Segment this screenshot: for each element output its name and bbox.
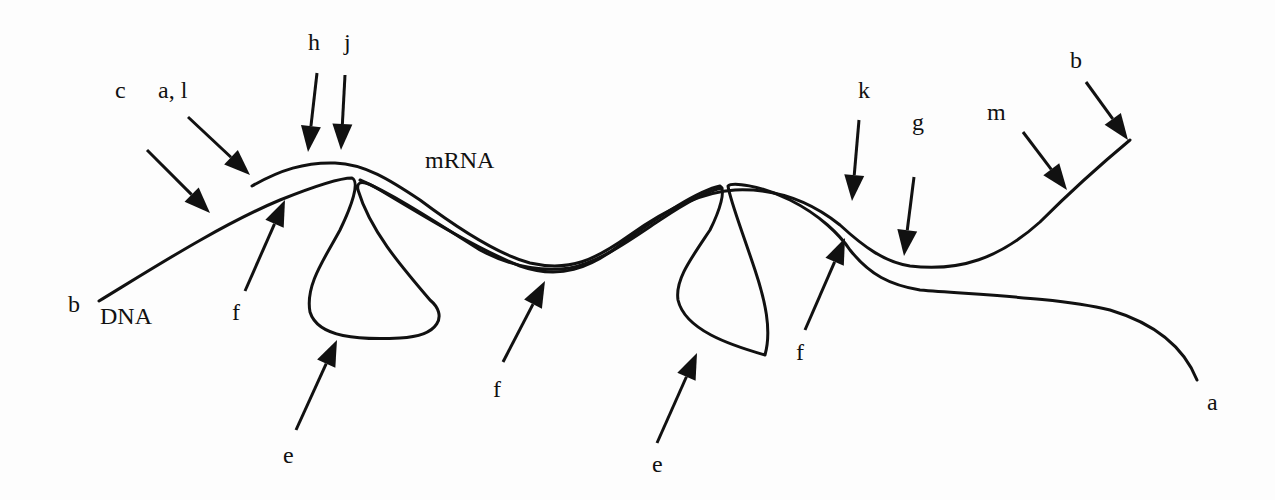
arrow-h-shaft: [311, 73, 317, 126]
arrow-e-2-shaft: [657, 377, 686, 443]
mrna-strand: [360, 180, 722, 269]
label-m: m: [987, 100, 1006, 124]
arrow-f-3-head-icon: [825, 238, 845, 266]
arrow-m-head-icon: [1043, 163, 1067, 190]
arrow-j-head-icon: [332, 124, 352, 150]
label-b-top: b: [1070, 48, 1082, 72]
label-g: g: [912, 110, 924, 134]
arrow-e-1-shaft: [296, 364, 326, 430]
label-e-2: e: [652, 452, 663, 476]
arrow-g-head-icon: [897, 229, 917, 256]
transcription-diagram: DNA mRNA c a, l h j k g m b b f f f e e …: [0, 0, 1275, 500]
arrow-j-shaft: [342, 75, 345, 124]
label-f-3: f: [796, 340, 804, 364]
label-b-left: b: [68, 292, 80, 316]
label-dna: DNA: [100, 304, 152, 328]
arrow-f-2-shaft: [503, 304, 533, 362]
label-f-1: f: [232, 300, 240, 324]
label-h: h: [308, 30, 320, 54]
arrow-c-shaft: [147, 150, 192, 195]
arrow-g-shaft: [907, 177, 914, 230]
label-f-2: f: [493, 377, 501, 401]
arrow-f-1-shaft: [245, 224, 275, 291]
label-a-end: a: [1207, 390, 1218, 414]
arrow-e-1-head-icon: [317, 340, 337, 368]
arrow-e-2-head-icon: [677, 353, 697, 381]
rna-coding-outer-strand: [252, 140, 1130, 267]
arrow-h-head-icon: [301, 125, 321, 152]
label-mrna: mRNA: [425, 148, 494, 172]
arrow-b-top-head-icon: [1105, 113, 1128, 140]
diagram-canvas: [0, 0, 1275, 500]
label-k: k: [858, 78, 870, 102]
label-a-l: a, l: [158, 78, 187, 102]
label-j: j: [344, 30, 351, 54]
dna-template-strand: [99, 178, 1197, 380]
arrow-a-l-shaft: [188, 117, 231, 157]
arrow-b-top-shaft: [1086, 82, 1113, 119]
label-e-1: e: [283, 443, 294, 467]
label-c: c: [115, 78, 126, 102]
arrow-k-shaft: [854, 120, 859, 175]
arrow-m-shaft: [1023, 132, 1051, 169]
arrow-k-head-icon: [844, 174, 864, 201]
arrow-f-3-shaft: [805, 262, 835, 330]
arrow-f-2-head-icon: [524, 281, 545, 309]
